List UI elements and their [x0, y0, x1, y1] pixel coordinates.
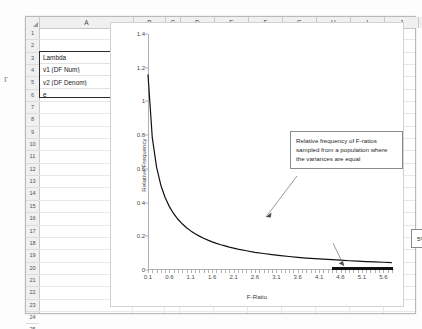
row-header-12[interactable]: 12 [26, 164, 39, 176]
cell-A24[interactable] [39, 312, 133, 313]
row-header-9[interactable]: 9 [26, 127, 39, 139]
param-label: v2 (DF Denom) [40, 79, 99, 86]
row-header-gutter: 1234567891011121314151617181920212223242… [26, 28, 40, 313]
row-header-1[interactable]: 1 [26, 28, 39, 40]
sheet-row [39, 312, 415, 313]
callout-alpha-description: 5% of area under the curve, or alpha [411, 229, 422, 248]
row-header-23[interactable]: 23 [26, 300, 39, 312]
row-header-5[interactable]: 5 [26, 77, 39, 89]
row-header-18[interactable]: 18 [26, 238, 39, 250]
embedded-chart[interactable]: Relative Frequency F-Ratio 00.20.40.60.8… [110, 22, 404, 307]
row-header-11[interactable]: 11 [26, 151, 39, 163]
row-header-13[interactable]: 13 [26, 176, 39, 188]
cell-F24[interactable] [248, 312, 282, 313]
cell-E24[interactable] [214, 312, 248, 313]
param-label: v1 (DF Num) [40, 66, 99, 73]
cell-I24[interactable] [350, 312, 384, 313]
cell-G24[interactable] [282, 312, 316, 313]
cell-D24[interactable] [180, 312, 214, 313]
row-header-15[interactable]: 15 [26, 201, 39, 213]
scan-artifact-glyph: r [4, 72, 11, 84]
row-header-17[interactable]: 17 [26, 226, 39, 238]
row-header-3[interactable]: 3 [26, 53, 39, 65]
cell-B24[interactable] [133, 312, 165, 313]
row-header-8[interactable]: 8 [26, 114, 39, 126]
cell-H24[interactable] [316, 312, 350, 313]
row-header-19[interactable]: 19 [26, 250, 39, 262]
cell-J24[interactable] [384, 312, 415, 313]
row-header-16[interactable]: 16 [26, 213, 39, 225]
screenshot-root: r ABCDEFGHIJK 12345678910111213141516171… [0, 0, 422, 329]
row-header-10[interactable]: 10 [26, 139, 39, 151]
row-header-22[interactable]: 22 [26, 287, 39, 299]
row-header-7[interactable]: 7 [26, 102, 39, 114]
cell-C24[interactable] [165, 312, 180, 313]
row-header-6[interactable]: 6 [26, 90, 39, 102]
row-header-21[interactable]: 21 [26, 275, 39, 287]
callout-curve-description: Relative frequency of F-ratios sampled f… [290, 131, 403, 169]
param-label: e [40, 91, 99, 98]
param-label: Lambda [40, 54, 99, 61]
row-header-4[interactable]: 4 [26, 65, 39, 77]
row-header-20[interactable]: 20 [26, 263, 39, 275]
row-header-2[interactable]: 2 [26, 40, 39, 52]
select-all-corner[interactable] [26, 17, 40, 28]
row-header-24[interactable]: 24 [26, 312, 39, 324]
row-header-14[interactable]: 14 [26, 188, 39, 200]
row-header-25[interactable]: 25 [26, 324, 39, 329]
